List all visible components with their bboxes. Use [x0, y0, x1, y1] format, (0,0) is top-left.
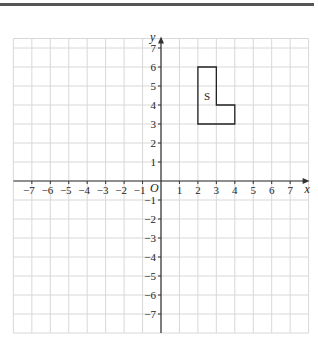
y-tick-label: 1	[151, 156, 157, 168]
shape-label: S	[204, 90, 210, 102]
origin-label: O	[150, 181, 159, 195]
x-tick-label: 2	[195, 184, 201, 196]
y-tick-label: −2	[144, 213, 156, 225]
y-tick-label: −3	[144, 232, 156, 244]
x-axis-label: x	[304, 182, 311, 196]
y-axis-label: y	[149, 30, 156, 44]
y-tick-label: −1	[144, 194, 156, 206]
coordinate-grid: −7−6−5−4−3−2−112345677654321−1−2−3−4−5−6…	[0, 0, 318, 349]
x-tick-label: −6	[41, 184, 53, 196]
y-tick-label: 3	[151, 118, 157, 130]
x-tick-label: −5	[60, 184, 72, 196]
x-tick-label: 3	[214, 184, 220, 196]
y-tick-label: 4	[151, 99, 157, 111]
x-tick-label: 7	[287, 184, 293, 196]
y-tick-label: −5	[144, 270, 156, 282]
y-tick-label: −6	[144, 289, 156, 301]
x-tick-label: 4	[232, 184, 238, 196]
x-tick-label: −4	[78, 184, 90, 196]
axes	[13, 37, 309, 334]
y-tick-label: 6	[151, 61, 157, 73]
y-tick-label: 7	[151, 42, 157, 54]
y-tick-label: 5	[151, 80, 157, 92]
x-tick-label: 6	[269, 184, 275, 196]
x-tick-label: −2	[115, 184, 127, 196]
x-tick-label: −3	[97, 184, 109, 196]
y-tick-label: −7	[144, 308, 156, 320]
y-tick-label: 2	[151, 137, 157, 149]
y-tick-label: −4	[144, 251, 156, 263]
x-tick-label: 1	[177, 184, 183, 196]
x-tick-label: −7	[23, 184, 35, 196]
x-tick-label: 5	[251, 184, 257, 196]
